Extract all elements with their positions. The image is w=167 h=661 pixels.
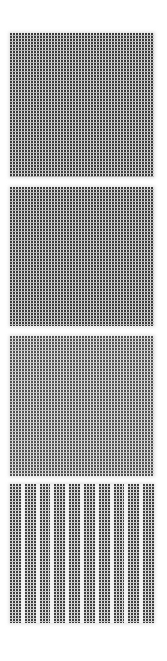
dot-column (25, 484, 36, 623)
halftone-swatch-3 (10, 336, 154, 476)
halftone-swatch-1 (10, 33, 154, 177)
dot-column (99, 484, 110, 623)
halftone-swatch-2 (10, 187, 154, 326)
dot-column (54, 484, 65, 623)
dot-column (69, 484, 80, 623)
dot-column (114, 484, 125, 623)
dot-column (128, 484, 139, 623)
dot-column (40, 484, 51, 623)
dot-column (143, 484, 154, 623)
dot-column (84, 484, 95, 623)
dot-column (10, 484, 21, 623)
halftone-swatch-4-columns (10, 484, 154, 623)
